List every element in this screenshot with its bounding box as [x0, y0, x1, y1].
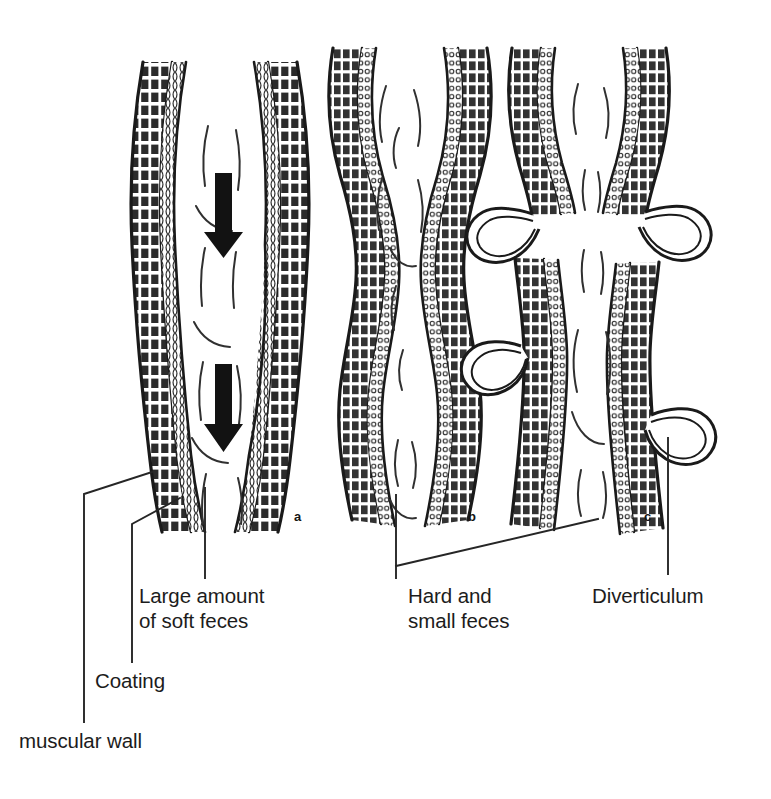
label-diverticulum: Diverticulum [592, 583, 704, 608]
panel-letter-b: b [468, 509, 476, 524]
label-hard-and-small-feces: Hard and small feces [408, 583, 509, 633]
panel-letter-c: c [644, 509, 651, 524]
panel-letter-a: a [294, 509, 301, 524]
label-large-amount-of-soft-feces: Large amount of soft feces [139, 583, 264, 633]
label-muscular-wall: muscular wall [19, 728, 142, 753]
label-coating: Coating [95, 668, 165, 693]
figure-root: Large amount of soft feces Coating muscu… [0, 0, 771, 799]
